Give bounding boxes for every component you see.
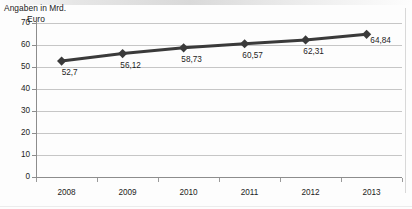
- frame-bottom-border: [0, 206, 412, 207]
- data-point-marker: [240, 39, 249, 48]
- data-point-label: 60,57: [231, 51, 275, 60]
- series-layer: [0, 0, 412, 209]
- data-point-label: 62,31: [292, 47, 336, 56]
- data-point-label: 52,7: [48, 68, 92, 77]
- data-point-label: 58,73: [170, 55, 214, 64]
- data-point-label: 56,12: [109, 61, 153, 70]
- line-chart: Angaben in Mrd. Euro 706050403020100 200…: [0, 0, 412, 209]
- data-point-marker: [301, 35, 310, 44]
- data-point-marker: [57, 56, 66, 65]
- data-point-marker: [118, 49, 127, 58]
- data-point-marker: [179, 43, 188, 52]
- frame-right-border: [405, 8, 406, 193]
- data-point-label: 64,84: [359, 36, 403, 45]
